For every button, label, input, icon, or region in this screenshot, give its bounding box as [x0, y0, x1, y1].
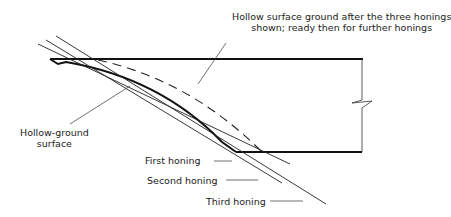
label-line: Hollow-ground — [20, 127, 89, 138]
leader-hollow — [70, 86, 130, 124]
label-line: surface — [20, 138, 89, 149]
label-third-honing: Third honing — [206, 196, 266, 207]
label-line: shown; ready then for further honings — [232, 22, 451, 33]
label-line: Hollow surface ground after the three ho… — [232, 11, 451, 22]
label-second-honing: Second honing — [147, 175, 218, 186]
break-line — [352, 59, 372, 152]
label-hollow-ground-surface: Hollow-ground surface — [20, 127, 89, 149]
leader-top — [198, 43, 226, 84]
label-hollow-surface-future: Hollow surface ground after the three ho… — [232, 11, 451, 33]
label-first-honing: First honing — [145, 155, 201, 166]
